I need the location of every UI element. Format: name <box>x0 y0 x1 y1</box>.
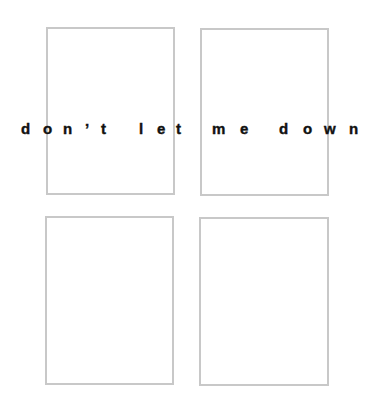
letter: e <box>157 120 165 138</box>
letter: t <box>176 120 181 138</box>
letter: w <box>324 120 336 138</box>
letter: d <box>279 120 288 138</box>
letter: o <box>303 120 312 138</box>
letter: t <box>101 120 106 138</box>
letter: d <box>21 120 30 138</box>
letter: l <box>139 120 143 138</box>
letter: m <box>212 120 225 138</box>
letter: e <box>240 120 248 138</box>
letter: n <box>63 120 72 138</box>
frame-top-right <box>200 28 329 196</box>
letter: ’ <box>85 120 89 138</box>
frame-bottom-left <box>45 216 174 385</box>
letter: n <box>349 120 358 138</box>
frame-bottom-right <box>199 217 329 386</box>
frame-top-left <box>46 27 175 195</box>
letter: o <box>43 120 52 138</box>
